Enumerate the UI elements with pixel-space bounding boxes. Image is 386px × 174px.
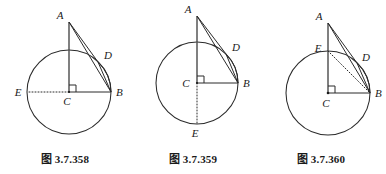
right-angle-mark-c-358 <box>69 85 76 92</box>
figure-canvas-360: A E D B C <box>256 0 386 150</box>
point-label-d-358: D <box>103 49 112 61</box>
segment-ad-359 <box>197 16 226 54</box>
figure-canvas-358: A D B C E <box>0 0 130 150</box>
point-label-e-358: E <box>14 86 22 98</box>
point-label-b-358: B <box>116 86 123 98</box>
figure-geometry-358: A D B C E <box>14 9 123 134</box>
figure-geometry-359: A D B C E <box>156 3 250 139</box>
figure-canvas-359: A D B C E <box>130 0 256 150</box>
point-label-a-359: A <box>184 3 192 15</box>
point-label-a-358: A <box>56 9 64 21</box>
figure-panel-360: A E D B C 图 3.7.360 <box>256 0 386 174</box>
figure-panel-359: A D B C E 图 3.7.359 <box>130 0 256 174</box>
segment-db-359 <box>226 54 238 83</box>
point-label-b-359: B <box>243 77 250 89</box>
figure-sheet: A D B C E 图 3.7.358 A D <box>0 0 386 174</box>
figure-geometry-360: A E D B C <box>286 10 382 135</box>
point-label-d-359: D <box>231 41 240 53</box>
point-label-c-359: C <box>182 77 190 89</box>
segment-ad-360 <box>328 23 357 63</box>
point-c-dot-359 <box>196 82 198 84</box>
figure-panel-358: A D B C E 图 3.7.358 <box>0 0 130 174</box>
point-label-e-360: E <box>314 42 322 54</box>
figure-caption-358: 图 3.7.358 <box>0 150 130 166</box>
point-label-b-360: B <box>375 87 382 99</box>
right-angle-mark-c-360 <box>328 86 335 93</box>
point-label-e-359: E <box>191 127 199 139</box>
segment-db-360 <box>357 63 370 93</box>
point-label-c-360: C <box>322 97 330 109</box>
point-c-dot-358 <box>68 91 70 93</box>
point-label-d-360: D <box>361 51 370 63</box>
figure-caption-360: 图 3.7.360 <box>256 150 386 166</box>
point-label-c-358: C <box>63 95 71 107</box>
figure-caption-359: 图 3.7.359 <box>130 150 256 166</box>
right-angle-mark-c-359 <box>197 76 204 83</box>
point-label-a-360: A <box>315 10 323 22</box>
segment-db-358 <box>98 62 111 92</box>
segment-ad-358 <box>69 22 98 62</box>
point-c-dot-360 <box>327 92 330 95</box>
